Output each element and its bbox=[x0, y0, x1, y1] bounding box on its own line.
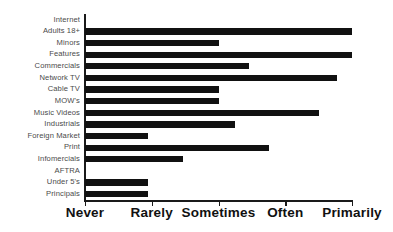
category-label: Under 5's bbox=[0, 178, 80, 186]
bar bbox=[85, 40, 219, 46]
x-axis-tick-label: Often bbox=[267, 205, 303, 220]
bar bbox=[85, 156, 183, 162]
bar bbox=[85, 133, 148, 139]
category-label: Internet bbox=[0, 16, 80, 24]
category-label: Features bbox=[0, 50, 80, 58]
bar bbox=[85, 110, 319, 116]
x-axis-tick-label: Never bbox=[66, 205, 105, 220]
x-axis-tick-label: Sometimes bbox=[182, 205, 256, 220]
category-label: MOW's bbox=[0, 97, 80, 105]
category-label: Principals bbox=[0, 190, 80, 198]
x-axis-tick-label: Primarily bbox=[322, 205, 382, 220]
bar bbox=[85, 75, 337, 81]
bar bbox=[85, 28, 352, 34]
bar bbox=[85, 145, 269, 151]
category-label: Commercials bbox=[0, 62, 80, 70]
bar bbox=[85, 86, 219, 92]
bar bbox=[85, 63, 249, 69]
category-axis-labels: InternetAdults 18+MinorsFeaturesCommerci… bbox=[0, 14, 83, 200]
x-axis-tick-label: Rarely bbox=[131, 205, 173, 220]
bar bbox=[85, 121, 235, 127]
bar-chart: InternetAdults 18+MinorsFeaturesCommerci… bbox=[0, 0, 393, 232]
x-axis-labels: NeverRarelySometimesOftenPrimarily bbox=[0, 205, 393, 227]
bar bbox=[85, 179, 148, 185]
category-label: Cable TV bbox=[0, 85, 80, 93]
category-label: Network TV bbox=[0, 74, 80, 82]
category-label: Foreign Market bbox=[0, 132, 80, 140]
category-label: Industrials bbox=[0, 120, 80, 128]
plot-area bbox=[85, 14, 352, 200]
category-label: AFTRA bbox=[0, 167, 80, 175]
bar bbox=[85, 98, 219, 104]
category-label: Minors bbox=[0, 39, 80, 47]
category-label: Music Videos bbox=[0, 109, 80, 117]
category-label: Adults 18+ bbox=[0, 27, 80, 35]
category-label: Infomercials bbox=[0, 155, 80, 163]
category-label: Print bbox=[0, 143, 80, 151]
bar bbox=[85, 191, 148, 197]
bar bbox=[85, 52, 352, 58]
